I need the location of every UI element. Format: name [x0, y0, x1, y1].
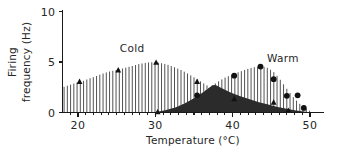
x-tick-label: 40 [225, 119, 240, 132]
cold-series-annotation: Cold [120, 42, 145, 54]
x-axis-title: Temperature (°C) [145, 134, 240, 146]
x-tick-label: 20 [71, 119, 86, 132]
y-axis-title-line1: Firing [6, 47, 18, 77]
y-axis-title-line2: frequency (Hz) [20, 22, 32, 102]
y-tick-label: 5 [48, 56, 55, 69]
firing-frequency-vs-temperature-chart: 0510 20304050 Temperature (°C) Firing fr… [0, 0, 339, 149]
y-tick-label: 0 [48, 107, 55, 120]
x-tick-label: 30 [148, 119, 163, 132]
chart-figure: 0510 20304050 Temperature (°C) Firing fr… [0, 0, 339, 149]
y-tick-label: 10 [41, 6, 56, 19]
x-tick-label: 50 [303, 119, 318, 132]
y-axis-tick-labels: 0510 [41, 6, 56, 120]
x-axis-tick-labels: 20304050 [71, 119, 318, 132]
warm-series-annotation: Warm [267, 52, 299, 64]
